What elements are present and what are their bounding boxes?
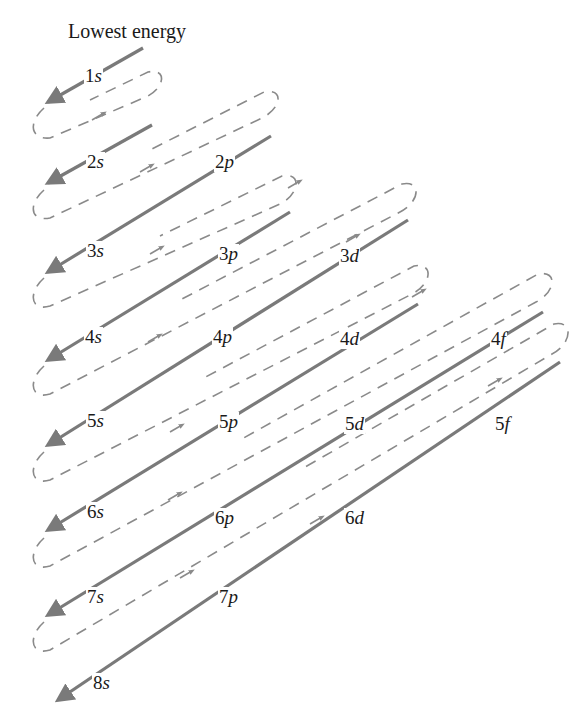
orbital-label-2p: 2p bbox=[214, 152, 235, 172]
arrow-row-7 bbox=[48, 312, 543, 615]
orbital-label-2s: 2s bbox=[86, 152, 105, 172]
orbital-label-3d: 3d bbox=[339, 246, 360, 266]
orbital-label-8s: 8s bbox=[92, 673, 111, 693]
subshell-letter: f bbox=[505, 413, 510, 434]
loop-arrow-4 bbox=[148, 335, 160, 342]
orbital-label-7p: 7p bbox=[218, 587, 239, 607]
subshell-letter: p bbox=[225, 151, 235, 172]
principal-number: 5 bbox=[345, 413, 355, 434]
principal-number: 2 bbox=[87, 151, 97, 172]
orbital-label-4d: 4d bbox=[339, 329, 360, 349]
solid-arrows bbox=[48, 48, 560, 700]
principal-number: 5 bbox=[87, 410, 97, 431]
subshell-letter: d bbox=[350, 245, 360, 266]
subshell-letter: s bbox=[97, 410, 104, 431]
subshell-letter: p bbox=[223, 326, 233, 347]
orbital-label-1s: 1s bbox=[84, 66, 103, 86]
loop-direction-arrows bbox=[92, 113, 500, 578]
principal-number: 5 bbox=[219, 411, 229, 432]
principal-number: 6 bbox=[345, 507, 355, 528]
principal-number: 4 bbox=[213, 326, 223, 347]
orbital-label-6d: 6d bbox=[344, 508, 365, 528]
principal-number: 6 bbox=[87, 501, 97, 522]
subshell-letter: f bbox=[501, 328, 506, 349]
dashed-loops bbox=[33, 71, 568, 651]
subshell-letter: d bbox=[355, 507, 365, 528]
loop-arrow-3b bbox=[288, 181, 300, 188]
orbital-label-4p: 4p bbox=[212, 327, 233, 347]
subshell-letter: p bbox=[225, 507, 235, 528]
principal-number: 4 bbox=[340, 328, 350, 349]
principal-number: 3 bbox=[340, 245, 350, 266]
orbital-label-7s: 7s bbox=[86, 587, 105, 607]
orbital-label-5s: 5s bbox=[86, 411, 105, 431]
principal-number: 7 bbox=[87, 586, 97, 607]
principal-number: 8 bbox=[93, 672, 103, 693]
loop-arrow-5 bbox=[170, 425, 182, 432]
subshell-letter: d bbox=[355, 413, 365, 434]
principal-number: 1 bbox=[85, 65, 95, 86]
subshell-letter: d bbox=[350, 328, 360, 349]
subshell-letter: s bbox=[97, 151, 104, 172]
loop-arrow-3 bbox=[150, 247, 162, 254]
subshell-letter: s bbox=[97, 501, 104, 522]
subshell-letter: s bbox=[95, 65, 102, 86]
subshell-letter: p bbox=[229, 586, 239, 607]
subshell-letter: s bbox=[95, 326, 102, 347]
loop-arrow-1 bbox=[92, 113, 104, 120]
orbital-label-5d: 5d bbox=[344, 414, 365, 434]
orbital-label-5p: 5p bbox=[218, 412, 239, 432]
principal-number: 6 bbox=[215, 507, 225, 528]
arrow-row-8 bbox=[58, 362, 560, 700]
loop-arrow-7c bbox=[488, 379, 500, 386]
principal-number: 2 bbox=[215, 151, 225, 172]
orbital-label-3p: 3p bbox=[218, 244, 239, 264]
loop-7 bbox=[33, 324, 568, 652]
subshell-letter: s bbox=[103, 672, 110, 693]
subshell-letter: p bbox=[229, 243, 239, 264]
subshell-letter: s bbox=[97, 586, 104, 607]
orbital-label-3s: 3s bbox=[86, 241, 105, 261]
principal-number: 4 bbox=[85, 326, 95, 347]
orbital-label-6s: 6s bbox=[86, 502, 105, 522]
orbital-label-4s: 4s bbox=[84, 327, 103, 347]
principal-number: 5 bbox=[495, 413, 505, 434]
principal-number: 7 bbox=[219, 586, 229, 607]
subshell-letter: s bbox=[97, 240, 104, 261]
principal-number: 3 bbox=[87, 240, 97, 261]
loop-4 bbox=[33, 184, 416, 396]
loop-5 bbox=[33, 266, 428, 482]
principal-number: 4 bbox=[491, 328, 501, 349]
lowest-energy-label: Lowest energy bbox=[68, 20, 186, 43]
subshell-letter: p bbox=[229, 411, 239, 432]
orbital-label-6p: 6p bbox=[214, 508, 235, 528]
principal-number: 3 bbox=[219, 243, 229, 264]
orbital-label-5f: 5f bbox=[494, 414, 511, 434]
orbital-label-4f: 4f bbox=[490, 329, 507, 349]
